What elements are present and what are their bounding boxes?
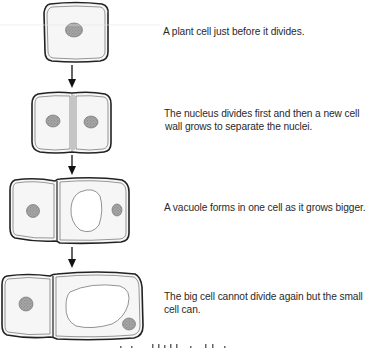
stage-4-caption: The big cell cannot divide again but the…	[164, 290, 369, 316]
stage-1-cell	[44, 3, 108, 63]
caption-line-2: wall grows to separate the nuclei.	[164, 120, 369, 133]
nucleus	[84, 116, 98, 128]
nucleus	[27, 205, 40, 218]
caption-line-1: The nucleus divides first and then a new…	[164, 107, 369, 120]
arrow-down-icon	[68, 155, 76, 175]
stage-2-caption: The nucleus divides first and then a new…	[164, 107, 369, 133]
nucleus	[123, 318, 136, 330]
clipped-footer-text	[0, 342, 372, 348]
caption-line-1: The big cell cannot divide again but the…	[164, 290, 369, 303]
caption-text: A plant cell just before it divides.	[163, 26, 304, 37]
stage-4-cells	[2, 272, 143, 340]
stage-1-caption: A plant cell just before it divides.	[163, 25, 368, 38]
caption-text: A vacuole forms in one cell as it grows …	[164, 202, 365, 213]
stage-3-caption: A vacuole forms in one cell as it grows …	[164, 201, 369, 214]
nucleus	[46, 115, 60, 127]
stage-2-cells	[32, 92, 111, 153]
arrow-down-icon	[68, 65, 76, 88]
clipped-text-fragments	[0, 344, 372, 348]
vacuole	[71, 190, 102, 232]
arrow-down-icon	[68, 247, 76, 268]
nucleus	[112, 204, 122, 216]
stage-3-cells	[10, 178, 129, 244]
nucleus	[19, 297, 33, 311]
caption-line-2: cell can.	[164, 303, 369, 316]
